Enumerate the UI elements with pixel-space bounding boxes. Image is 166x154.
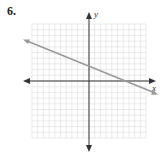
line-arrow-start-icon bbox=[23, 40, 30, 45]
y-axis-label: y bbox=[93, 9, 98, 19]
arrow-down-icon bbox=[86, 145, 92, 152]
coordinate-plane: x y bbox=[0, 0, 166, 154]
arrow-up-icon bbox=[86, 12, 92, 19]
arrow-left-icon bbox=[23, 78, 30, 84]
